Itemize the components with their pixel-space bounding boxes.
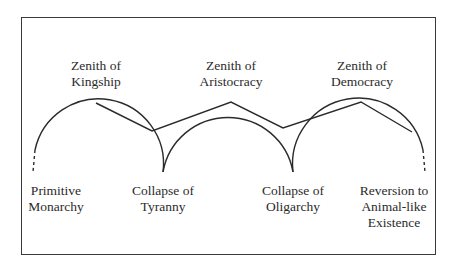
arc-democracy-dashed-tail <box>423 150 425 172</box>
arc-aristocracy <box>163 117 293 172</box>
label-line: Animal-like <box>360 199 429 215</box>
label-line: Reversion to <box>360 183 429 199</box>
label-line: Primitive <box>28 183 83 199</box>
label-line: Existence <box>360 215 429 231</box>
label-line: Zenith of <box>200 58 263 74</box>
label-zenith-aristocracy: Zenith of Aristocracy <box>200 58 263 90</box>
label-line: Democracy <box>331 74 393 90</box>
label-line: Kingship <box>71 74 121 90</box>
label-line: Collapse of <box>262 183 324 199</box>
label-line: Collapse of <box>132 183 194 199</box>
label-primitive-monarchy: Primitive Monarchy <box>28 183 83 215</box>
label-line: Monarchy <box>28 199 83 215</box>
label-line: Tyranny <box>132 199 194 215</box>
arc-kingship <box>35 99 164 172</box>
label-line: Zenith of <box>331 58 393 74</box>
arc-kingship-dashed-tail <box>33 150 35 172</box>
label-collapse-oligarchy: Collapse of Oligarchy <box>262 183 324 215</box>
label-line: Oligarchy <box>262 199 324 215</box>
label-collapse-tyranny: Collapse of Tyranny <box>132 183 194 215</box>
arc-democracy <box>293 98 423 172</box>
label-line: Zenith of <box>71 58 121 74</box>
label-reversion-animal-existence: Reversion to Animal-like Existence <box>360 183 429 231</box>
label-line: Aristocracy <box>200 74 263 90</box>
label-zenith-kingship: Zenith of Kingship <box>71 58 121 90</box>
label-zenith-democracy: Zenith of Democracy <box>331 58 393 90</box>
